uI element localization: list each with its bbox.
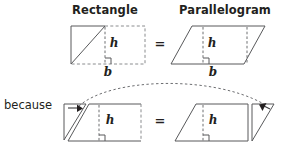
header-rectangle: Rectangle — [72, 3, 138, 17]
rect-height-label: h — [110, 36, 119, 50]
parallelogram-height-label: h — [208, 36, 217, 50]
bottom-left-right-angle-mark — [99, 135, 105, 141]
arrow-right-icon — [68, 105, 83, 113]
header-parallelogram: Parallelogram — [179, 3, 271, 17]
bottom-left-height-label: h — [106, 113, 115, 127]
top-left-rectangle-shape: h b — [71, 26, 145, 79]
because-label: because — [4, 98, 52, 112]
bottom-left-shape: h — [64, 104, 141, 141]
bottom-right-right-angle-mark — [203, 135, 209, 141]
bottom-left-detached-triangle — [64, 104, 86, 140]
top-equals-sign: = — [155, 36, 166, 51]
rect-base-label: b — [104, 65, 112, 79]
parallelogram-base-label: b — [209, 65, 217, 79]
top-right-parallelogram-shape: h b — [171, 26, 265, 79]
parallelogram-outline — [171, 26, 265, 64]
rect-diagonal-cut — [71, 26, 105, 64]
diagram-canvas: Rectangle Parallelogram h b = — [0, 0, 284, 149]
bottom-right-shape: h — [175, 103, 274, 141]
transform-arc — [79, 83, 262, 106]
parallelogram-right-angle-mark — [203, 58, 209, 64]
geometry-diagram: Rectangle Parallelogram h b = — [0, 0, 284, 149]
bottom-equals-sign: = — [155, 113, 166, 128]
rect-right-angle-mark — [105, 58, 111, 64]
bottom-right-height-label: h — [209, 113, 218, 127]
